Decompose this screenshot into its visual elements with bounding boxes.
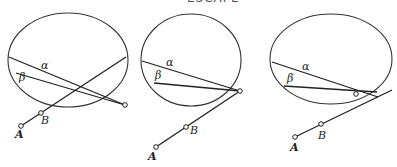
ellipse [270, 14, 392, 104]
beta-ray [284, 86, 377, 92]
alpha-label: α [302, 60, 310, 73]
alpha-ray [9, 57, 125, 105]
point-a [293, 135, 298, 140]
point-a [154, 145, 159, 150]
diagram-2: α β A B [141, 14, 242, 163]
beta-label: β [286, 72, 293, 85]
b-label: B [40, 114, 49, 127]
beta-label: β [154, 69, 161, 82]
convergence-point [238, 89, 243, 94]
a-label: A [147, 150, 157, 163]
beta-ray [16, 73, 125, 105]
ellipse [8, 13, 128, 107]
b-label: B [189, 124, 198, 137]
diagram-canvas: α β A B α β A B α β A B [0, 0, 397, 167]
a-label: A [14, 128, 24, 141]
diagram-3: α β A B [270, 14, 392, 154]
ab-line [156, 91, 240, 147]
convergence-point [354, 92, 359, 97]
a-label: A [289, 141, 299, 154]
ellipse [141, 14, 241, 106]
ab-line [295, 90, 392, 137]
beta-label: β [18, 71, 25, 84]
point-b [184, 125, 189, 130]
ab-line [21, 57, 126, 126]
alpha-label: α [41, 59, 49, 72]
diagram-1: α β A B [8, 13, 128, 141]
b-label: B [317, 129, 326, 142]
point-b [319, 122, 324, 127]
alpha-label: α [166, 56, 174, 69]
convergence-point [123, 103, 128, 108]
